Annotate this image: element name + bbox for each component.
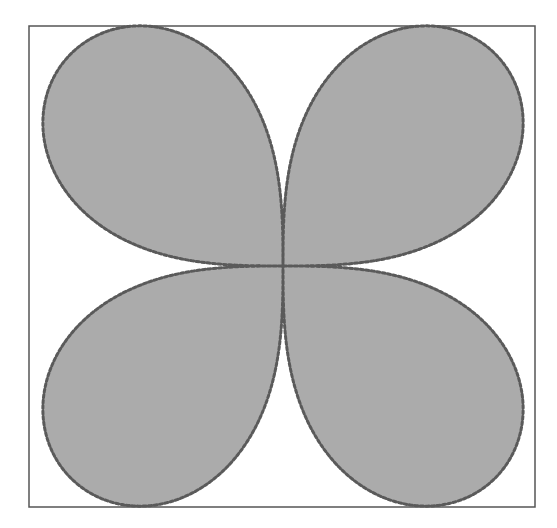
- rose-plot: [0, 0, 557, 528]
